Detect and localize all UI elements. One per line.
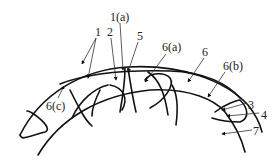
diagram-lines <box>0 0 278 161</box>
label-7: 7 <box>253 125 259 137</box>
label-3: 3 <box>248 99 254 111</box>
label-6b: 6(b) <box>223 60 243 72</box>
label-1a: 1(a) <box>110 11 129 23</box>
diagram-canvas: 1 2 1(a) 5 6(a) 6 6(b) 6(c) 3 4 7 <box>0 0 278 161</box>
label-2: 2 <box>107 26 113 38</box>
label-6: 6 <box>202 46 208 58</box>
label-4: 4 <box>261 109 267 121</box>
label-1: 1 <box>95 26 101 38</box>
label-6a: 6(a) <box>162 41 181 53</box>
label-6c: 6(c) <box>46 100 65 112</box>
label-5: 5 <box>137 30 143 42</box>
